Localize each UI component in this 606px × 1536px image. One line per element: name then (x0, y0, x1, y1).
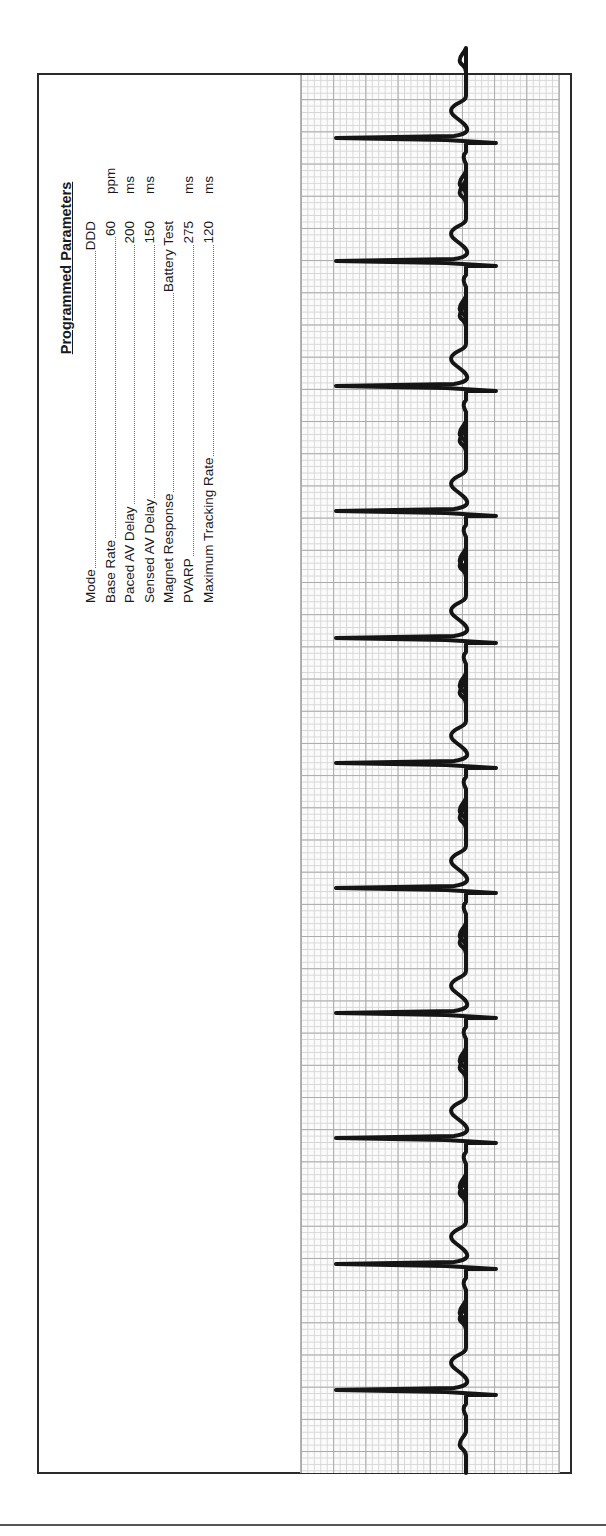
ecg-grid-paper (300, 75, 560, 1473)
param-label: Mode (81, 568, 101, 603)
param-row-sensed-av-delay: Sensed AV Delay 150 ms (140, 162, 160, 612)
programmed-parameters-panel: Programmed Parameters Mode DDD Base Rate… (52, 162, 232, 612)
page-separator-line (0, 1524, 606, 1526)
param-row-max-tracking-rate: Maximum Tracking Rate 120 ms (199, 162, 219, 612)
param-label: Base Rate (101, 539, 121, 603)
parameters-list: Mode DDD Base Rate 60 ppm Paced AV Delay… (81, 162, 218, 612)
param-unit: ms (120, 176, 140, 194)
param-label: Magnet Response (159, 492, 179, 603)
param-row-mode: Mode DDD (81, 162, 101, 612)
param-unit: ms (179, 176, 199, 194)
param-label: PVARP (179, 557, 199, 603)
param-row-base-rate: Base Rate 60 ppm (101, 162, 121, 612)
param-value: 275 (179, 221, 199, 245)
param-row-pvarp: PVARP 275 ms (179, 162, 199, 612)
parameters-title: Programmed Parameters (56, 169, 76, 367)
leader-dots (193, 221, 194, 603)
param-value: DDD (81, 221, 101, 251)
param-label: Maximum Tracking Rate (199, 456, 219, 603)
param-value: 200 (120, 221, 140, 245)
param-label: Paced AV Delay (120, 505, 140, 603)
param-value: 120 (199, 221, 219, 245)
param-value: 150 (140, 221, 160, 245)
param-label: Sensed AV Delay (140, 498, 160, 603)
param-unit: ms (199, 176, 219, 194)
param-value: Battery Test (159, 221, 179, 293)
param-value: 60 (101, 221, 121, 237)
param-row-magnet-response: Magnet Response Battery Test (159, 162, 179, 612)
param-unit: ppm (101, 168, 121, 194)
param-unit: ms (140, 176, 160, 194)
leader-dots (95, 221, 96, 603)
param-row-paced-av-delay: Paced AV Delay 200 ms (120, 162, 140, 612)
